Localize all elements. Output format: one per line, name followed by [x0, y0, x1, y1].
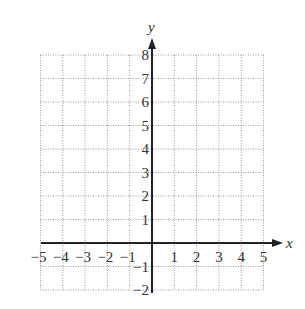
y-tick-label: −2: [133, 282, 149, 298]
y-tick-label: 1: [142, 212, 150, 228]
x-tick-label: 5: [260, 249, 268, 265]
x-tick-label: −5: [31, 249, 47, 265]
x-axis-arrow-icon: [272, 239, 283, 247]
x-tick-label: −4: [53, 249, 69, 265]
x-tick-label: −2: [97, 249, 113, 265]
x-tick-label: 1: [171, 249, 179, 265]
x-axis-label: x: [285, 235, 293, 251]
x-tick-label: 2: [193, 249, 201, 265]
x-tick-label: −3: [75, 249, 91, 265]
y-axis-label: y: [146, 19, 155, 35]
y-tick-label: 4: [142, 141, 150, 157]
x-tick-label: 3: [215, 249, 223, 265]
y-tick-label: 2: [142, 188, 150, 204]
y-tick-label: 3: [142, 165, 150, 181]
coordinate-grid: x y −5−4−3−2−112345 87654321−1−2: [0, 0, 305, 309]
grid-svg: x y −5−4−3−2−112345 87654321−1−2: [0, 0, 305, 309]
y-tick-label: 5: [142, 118, 150, 134]
y-tick-label: −1: [133, 259, 149, 275]
y-axis-arrow-icon: [148, 38, 156, 49]
y-tick-label: 6: [142, 94, 150, 110]
x-tick-label: 4: [237, 249, 245, 265]
y-tick-label: 8: [142, 47, 150, 63]
y-tick-label: 7: [142, 71, 150, 87]
